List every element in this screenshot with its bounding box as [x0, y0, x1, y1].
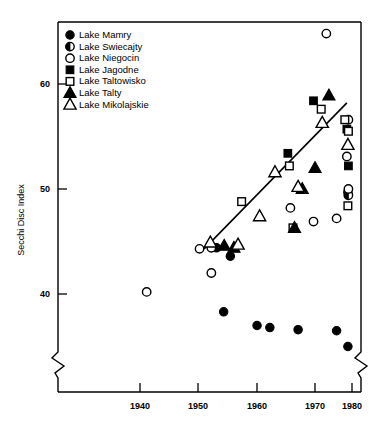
data-point	[286, 204, 294, 212]
series-lake-mamry	[212, 188, 352, 351]
data-point	[226, 252, 234, 260]
y-axis-ticks: 60 50 40	[40, 79, 67, 299]
legend-item-label: Lake Mikolajskie	[79, 99, 149, 110]
legend-marker-open-triangle-icon	[64, 98, 76, 109]
data-point	[344, 342, 352, 350]
data-points-layer	[142, 29, 354, 350]
legend-marker-open-circle-icon	[66, 54, 74, 62]
frame-left	[52, 22, 64, 392]
x-tick-label-1950: 1950	[188, 401, 208, 411]
chart-svg: 60 50 40 Secchi Disc Index 1940 1950 196…	[0, 0, 385, 440]
legend-item-label: Lake Talty	[79, 87, 122, 98]
legend-item-label: Lake Niegocin	[79, 52, 139, 63]
y-tick-label-40: 40	[40, 289, 50, 299]
data-point	[332, 214, 340, 222]
x-tick-label-1980: 1980	[342, 401, 362, 411]
data-point	[316, 116, 328, 127]
data-point	[219, 308, 227, 316]
data-point	[345, 162, 353, 170]
data-point	[253, 210, 265, 221]
y-tick-label-60: 60	[40, 79, 50, 89]
legend-item-label: Lake Jagodne	[79, 64, 139, 75]
legend-item-label: Lake Swiecajty	[79, 41, 143, 52]
series-lake-niegocin	[142, 29, 352, 296]
data-point	[343, 152, 351, 160]
legend-item-lake-jagodne: Lake Jagodne	[66, 64, 139, 75]
data-point	[207, 269, 215, 277]
data-point	[344, 185, 352, 193]
data-point	[332, 327, 340, 335]
series-lake-taltowisko	[238, 105, 352, 231]
data-point	[294, 326, 302, 334]
legend-item-label: Lake Taltowisko	[79, 75, 146, 86]
data-point	[253, 321, 261, 329]
data-point	[195, 245, 203, 253]
legend-item-lake-talty: Lake Talty	[64, 87, 122, 98]
data-point	[345, 127, 353, 135]
data-point	[310, 97, 318, 105]
legend-item-lake-swiecajty: Lake Swiecajty	[66, 41, 143, 52]
legend-item-lake-taltowisko: Lake Taltowisko	[66, 75, 146, 86]
legend-marker-filled-triangle-icon	[64, 87, 76, 98]
legend-marker-half-circle-icon	[66, 42, 74, 50]
data-point	[142, 288, 150, 296]
legend-marker-filled-circle-icon	[66, 31, 74, 39]
series-lake-mikolajskie	[204, 116, 354, 249]
data-point	[342, 138, 354, 149]
legend-item-lake-niegocin: Lake Niegocin	[66, 52, 139, 63]
data-point	[322, 29, 330, 37]
legend-item-label: Lake Mamry	[79, 29, 132, 40]
data-point	[238, 198, 246, 206]
data-point	[317, 105, 325, 113]
y-axis-title: Secchi Disc Index	[16, 184, 26, 256]
x-tick-label-1970: 1970	[305, 401, 325, 411]
x-tick-label-1960: 1960	[247, 401, 267, 411]
data-point	[309, 162, 321, 173]
data-point	[323, 89, 335, 100]
data-point	[266, 323, 274, 331]
data-point	[309, 217, 317, 225]
chart-legend: Lake MamryLake SwiecajtyLake NiegocinLak…	[64, 29, 149, 110]
x-axis-ticks: 1940 1950 1960 1970 1980	[130, 383, 362, 411]
frame-right	[355, 22, 367, 392]
data-point	[344, 202, 352, 210]
secchi-disc-index-scatter-chart: 60 50 40 Secchi Disc Index 1940 1950 196…	[0, 0, 385, 440]
legend-item-lake-mamry: Lake Mamry	[66, 29, 132, 40]
legend-item-lake-mikolajskie: Lake Mikolajskie	[64, 98, 149, 109]
y-tick-label-50: 50	[40, 184, 50, 194]
data-point	[286, 162, 294, 170]
legend-marker-open-square-icon	[66, 78, 74, 86]
data-point	[284, 149, 292, 157]
legend-marker-filled-square-icon	[66, 66, 74, 74]
x-tick-label-1940: 1940	[130, 401, 150, 411]
data-point	[341, 116, 349, 124]
